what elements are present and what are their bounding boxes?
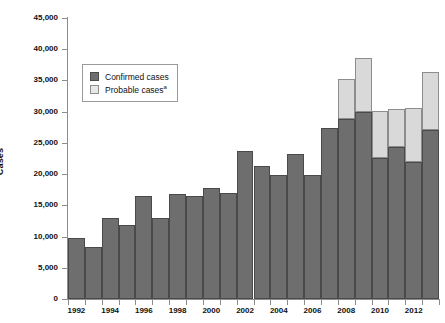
bar-segment	[405, 108, 422, 162]
y-axis-tick-label: 10,000	[10, 233, 58, 241]
x-axis-tick	[388, 300, 389, 305]
x-axis-tick	[338, 300, 339, 305]
y-axis-tick-label: 25,000	[10, 139, 58, 147]
bar-segment	[304, 175, 321, 299]
y-axis-tick-label: 35,000	[10, 76, 58, 84]
bar-segment	[119, 225, 136, 299]
bar-segment	[321, 128, 338, 299]
x-axis-tick	[220, 300, 221, 305]
bar-segment	[203, 188, 220, 299]
bar-segment	[287, 154, 304, 299]
y-axis-tick-label: 30,000	[10, 108, 58, 116]
y-axis-tick-label: 45,000	[10, 14, 58, 22]
y-axis-tick-label: 20,000	[10, 170, 58, 178]
y-axis-tick	[62, 174, 67, 175]
x-axis-tick	[237, 300, 238, 305]
x-axis-tick	[422, 300, 423, 305]
bar-segment	[355, 58, 372, 112]
y-axis-tick-label: 5,000	[10, 264, 58, 272]
bar-segment	[152, 218, 169, 299]
y-axis-tick	[62, 112, 67, 113]
x-axis-tick	[287, 300, 288, 305]
bar-segment	[338, 119, 355, 299]
y-axis-tick-label: 0	[10, 295, 58, 303]
bar-segment	[270, 175, 287, 299]
x-axis-tick	[102, 300, 103, 305]
y-axis-tick	[62, 80, 67, 81]
bar-segment	[388, 109, 405, 147]
y-axis-tick-label: 15,000	[10, 201, 58, 209]
x-axis-tick	[169, 300, 170, 305]
y-axis-tick	[62, 18, 67, 19]
legend-swatch-probable-icon	[90, 85, 99, 94]
bar-segment	[135, 196, 152, 299]
x-axis-tick	[439, 300, 440, 305]
bar-segment	[422, 72, 439, 129]
y-axis-tick	[62, 299, 67, 300]
x-axis-tick	[304, 300, 305, 305]
y-axis-tick	[62, 205, 67, 206]
x-axis-tick	[186, 300, 187, 305]
bar-segment	[372, 158, 389, 299]
bar-segment	[372, 111, 389, 158]
bar-segment	[355, 112, 372, 299]
bar-chart: Cases 05,00010,00015,00020,00025,00030,0…	[0, 0, 445, 323]
bar-segment	[85, 247, 102, 299]
x-axis-tick	[372, 300, 373, 305]
bar-segment	[237, 151, 254, 299]
bar-segment	[169, 194, 186, 299]
x-axis-tick	[119, 300, 120, 305]
x-axis-tick	[203, 300, 204, 305]
y-axis-tick	[62, 49, 67, 50]
x-axis-tick	[270, 300, 271, 305]
bar-segment	[186, 196, 203, 299]
bar-segment	[405, 162, 422, 299]
bar-segment	[220, 193, 237, 299]
bar-segment	[338, 79, 355, 119]
legend-label-confirmed: Confirmed cases	[105, 72, 169, 82]
legend-item-confirmed: Confirmed cases	[90, 70, 169, 83]
x-axis-tick	[152, 300, 153, 305]
y-axis-tick	[62, 143, 67, 144]
y-axis-tick	[62, 237, 67, 238]
x-axis-tick	[355, 300, 356, 305]
bar-segment	[102, 218, 119, 299]
bar-segment	[388, 147, 405, 299]
legend-item-probable: Probable casesa	[90, 83, 169, 96]
x-axis-tick	[85, 300, 86, 305]
x-axis-tick	[68, 300, 69, 305]
bar-segment	[422, 130, 439, 299]
bar-segment	[254, 166, 271, 299]
legend-label-probable: Probable casesa	[105, 84, 167, 95]
x-axis-tick-label: 2012	[394, 307, 434, 315]
legend-swatch-confirmed-icon	[90, 72, 99, 81]
y-axis-tick-label: 40,000	[10, 45, 58, 53]
bar-segment	[68, 238, 85, 299]
x-axis-tick	[135, 300, 136, 305]
legend-footnote-marker: a	[164, 84, 167, 90]
legend: Confirmed cases Probable casesa	[82, 64, 178, 102]
x-axis-tick	[254, 300, 255, 305]
y-axis-tick	[62, 268, 67, 269]
x-axis-tick	[321, 300, 322, 305]
x-axis-tick	[405, 300, 406, 305]
